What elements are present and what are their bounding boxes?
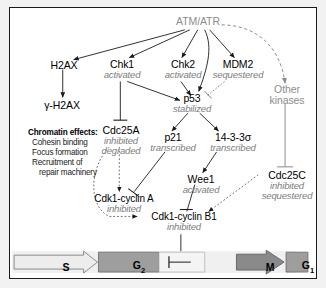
node-h2ax[interactable]: H2AX xyxy=(34,60,94,71)
diagram-frame: ATM/ATR H2AX γ-H2AX Chk1 activated Chk2 … xyxy=(0,0,326,288)
phase-label-g1: G1 xyxy=(302,259,314,274)
edge-atm-mdm2 xyxy=(210,30,235,58)
phase-label-s: S xyxy=(62,261,69,273)
chromatin-effects-item: Recruitment of xyxy=(28,158,98,168)
node-other-kinases-label-2: kinases xyxy=(262,95,312,106)
node-cdc25a-state-2: degraded xyxy=(90,146,152,156)
diagram-panel: ATM/ATR H2AX γ-H2AX Chk1 activated Chk2 … xyxy=(9,7,317,279)
node-gamma-h2ax-label: γ-H2AX xyxy=(30,100,94,111)
node-h2ax-label: H2AX xyxy=(34,60,94,71)
node-p53-state: stabilized xyxy=(169,104,215,114)
node-atm-atr-label: ATM/ATR xyxy=(165,16,231,27)
edge-p53-1433 xyxy=(200,113,219,131)
phase-label-m: M xyxy=(266,261,275,273)
edge-1433-wee1 xyxy=(203,152,217,173)
node-gamma-h2ax[interactable]: γ-H2AX xyxy=(30,100,94,111)
chromatin-effects-item: repair machinery xyxy=(28,168,98,178)
edge-atm-chk2 xyxy=(182,30,198,58)
node-atm-atr[interactable]: ATM/ATR xyxy=(165,16,231,27)
edge-p53-p21 xyxy=(172,113,188,131)
node-cdc25a[interactable]: Cdc25A inhibited degraded xyxy=(90,125,152,156)
chromatin-effects-heading: Chromatin effects: xyxy=(28,128,98,138)
node-wee1[interactable]: Wee1 activated xyxy=(176,174,226,195)
node-14-3-3-sigma[interactable]: 14-3-3σ transcribed xyxy=(202,132,264,153)
node-14-3-3-sigma-state: transcribed xyxy=(202,143,264,153)
cell-cycle-bar: S G2 M G1 xyxy=(21,253,307,279)
node-cdk1-cyclin-b1[interactable]: Cdk1-cyclin B1 inhibited xyxy=(138,212,230,232)
node-other-kinases[interactable]: Other kinases xyxy=(262,84,312,106)
chromatin-effects-item: Cohesin binding xyxy=(28,138,98,148)
edge-atm-h2ax xyxy=(74,30,185,60)
node-cdc25c-state-2: sequestered xyxy=(254,191,317,201)
node-p21[interactable]: p21 transcribed xyxy=(146,132,200,153)
phase-label-g2: G2 xyxy=(133,259,145,274)
node-cdk1-cyclin-b1-state: inhibited xyxy=(138,222,230,232)
node-mdm2-state: sequestered xyxy=(202,70,274,80)
edge-atm-chk1 xyxy=(129,30,190,58)
node-mdm2[interactable]: MDM2 sequestered xyxy=(202,59,274,80)
chromatin-effects-item: Focus formation xyxy=(28,148,98,158)
node-cdc25c[interactable]: Cdc25C inhibited sequestered xyxy=(254,170,317,201)
edge-p21-cdk1a xyxy=(134,152,165,192)
node-wee1-state: activated xyxy=(176,185,226,195)
node-p21-state: transcribed xyxy=(146,143,200,153)
node-p53[interactable]: p53 stabilized xyxy=(169,93,215,114)
node-chk1[interactable]: Chk1 activated xyxy=(96,59,148,80)
chromatin-effects-block: Chromatin effects: Cohesin binding Focus… xyxy=(28,128,98,178)
node-chk1-state: activated xyxy=(96,70,148,80)
